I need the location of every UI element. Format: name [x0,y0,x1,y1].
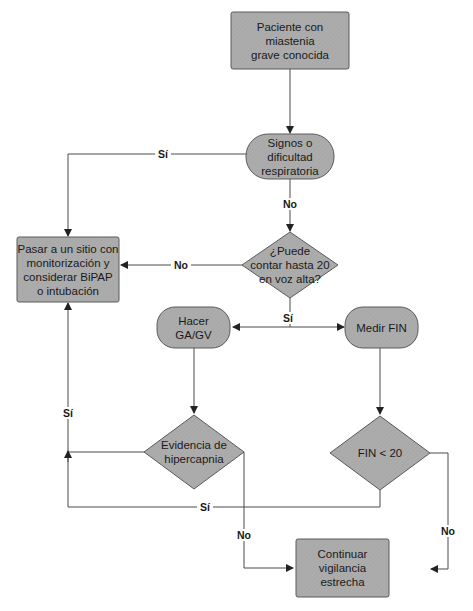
node-start-label: Paciente con miastenia grave conocida [231,12,349,69]
node-fin20-label: FIN < 20 [336,433,424,473]
edge-label-fin20-no: No [438,525,458,537]
node-medir-fin-label: Medir FIN [345,307,418,348]
edge-label-contar-no: No [171,259,191,271]
edge-label-signos-no: No [280,198,300,210]
edge-label-signos-si: Sí [155,148,171,160]
node-pasar-label: Pasar a un sitio con monitorización y co… [17,237,119,302]
edge-label-contar-si: Sí [280,312,296,324]
edge-label-hipercapnia-no: No [234,529,254,541]
flowchart-canvas [0,0,473,611]
edge-label-hipercapnia-si: Sí [60,407,76,419]
edge-hipercapnia-pasar [68,303,144,452]
edge-hipercapnia-continuar [244,452,293,568]
node-continuar-label: Continuar vigilancia estrecha [296,539,389,597]
edge-label-fin20-si: Sí [197,501,213,513]
node-signos-label: Signos o dificultad respiratoria [246,134,334,179]
node-hipercapnia-label: Evidencia de hipercapnia [150,432,238,472]
node-hacer-ga-label: Hacer GA/GV [157,307,230,348]
node-contar-label: ¿Puede contar hasta 20 en voz alta? [236,238,344,292]
edge-signos-pasar [68,154,247,236]
edge-fin20-continuar [430,453,448,569]
